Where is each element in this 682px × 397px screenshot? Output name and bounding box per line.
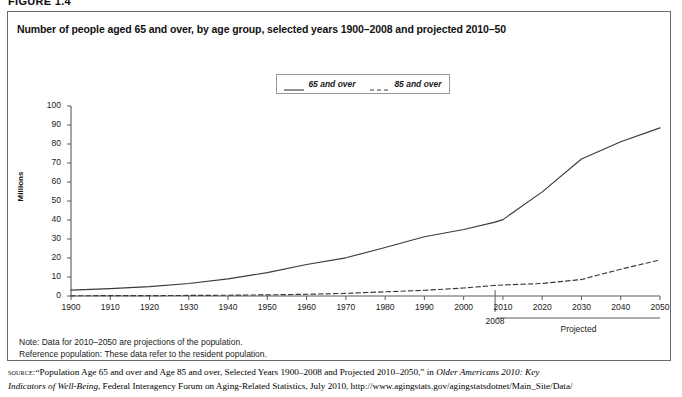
legend-label-65-and-over: 65 and over [308,79,355,89]
source-note: source:“Population Age 65 and over and A… [8,366,676,392]
figure-label: FIGURE 1.4 [8,0,71,7]
source-text-1: “Population Age 65 and over and Age 85 a… [35,367,436,377]
chart-notes: Note: Data for 2010–2050 are projections… [19,337,267,360]
source-kicker: source: [8,368,35,377]
source-italic-2: Indicators of Well-Being [8,381,98,391]
note-line-1: Note: Data for 2010–2050 are projections… [19,337,267,349]
legend-item-85-and-over: 85 and over [370,79,441,89]
legend-label-85-and-over: 85 and over [394,79,441,89]
note-line-2: Reference population: These data refer t… [19,349,267,361]
chart-legend: 65 and over 85 and over [276,74,450,94]
legend-item-65-and-over: 65 and over [284,79,355,89]
source-italic-1: Older Americans 2010: Key [436,367,539,377]
source-text-2: , Federal Interagency Forum on Aging-Rel… [98,381,573,391]
chart-title: Number of people aged 65 and over, by ag… [17,23,506,35]
figure-box: Number of people aged 65 and over, by ag… [7,11,671,361]
legend-swatch-solid-icon [284,80,304,88]
legend-swatch-dashed-icon [370,80,390,88]
